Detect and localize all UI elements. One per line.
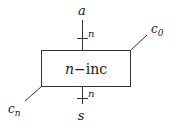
input-a-width-label: n [88, 28, 94, 39]
block-label-sep: − [74, 61, 86, 77]
block-label: n−inc [65, 61, 107, 77]
carry-in-label-subscript: 0 [158, 28, 164, 38]
carry-in-label: c0 [151, 22, 164, 38]
block-label-var: n [65, 61, 74, 77]
n-inc-diagram: n−inc a n s n c0 cn [0, 0, 175, 131]
input-a-label: a [78, 3, 86, 18]
carry-in-wire [131, 35, 148, 51]
output-s-label: s [78, 108, 85, 123]
carry-out-wire [25, 87, 42, 102]
carry-out-label-subscript: n [15, 108, 21, 118]
carry-out-label: cn [8, 102, 21, 118]
block-label-name: inc [86, 61, 107, 77]
output-s-width-label: n [88, 88, 94, 99]
